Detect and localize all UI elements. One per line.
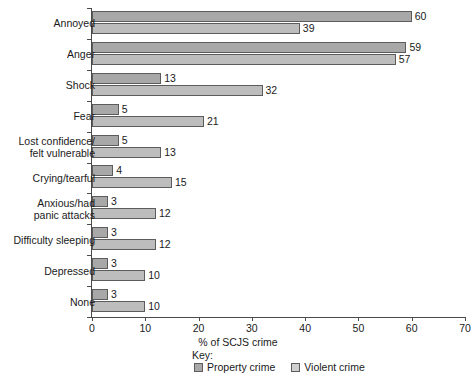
bar-value-label: 12 xyxy=(159,206,171,220)
bar-violent xyxy=(92,147,161,158)
bar-value-label: 15 xyxy=(175,175,187,189)
x-tick-label: 70 xyxy=(450,322,476,334)
bar-value-label: 21 xyxy=(207,114,219,128)
bar-property xyxy=(92,42,406,53)
category-label: Fear xyxy=(0,110,95,122)
bar-violent xyxy=(92,208,156,219)
bar-value-label: 10 xyxy=(148,268,160,282)
category-label: Lost confidence/ felt vulnerable xyxy=(0,135,95,159)
category-label: Anger xyxy=(0,48,95,60)
category-label: Anxious/had panic attacks xyxy=(0,197,95,221)
x-tick-label: 40 xyxy=(290,322,320,334)
bar-value-label: 60 xyxy=(415,9,427,23)
y-tick xyxy=(87,163,92,164)
legend-item[interactable]: Property crime xyxy=(194,361,275,373)
x-tick-label: 20 xyxy=(184,322,214,334)
bar-property xyxy=(92,135,119,146)
x-tick-mark xyxy=(465,317,466,321)
legend-items: Property crimeViolent crime xyxy=(194,361,365,373)
x-tick-mark xyxy=(252,317,253,321)
bar-value-label: 5 xyxy=(122,102,128,116)
bar-violent xyxy=(92,54,396,65)
legend-label: Property crime xyxy=(207,361,275,373)
y-tick xyxy=(87,101,92,102)
x-tick-label: 60 xyxy=(397,322,427,334)
y-tick xyxy=(87,39,92,40)
x-tick-mark xyxy=(145,317,146,321)
x-tick-label: 50 xyxy=(343,322,373,334)
bar-value-label: 5 xyxy=(122,133,128,147)
bar-violent xyxy=(92,23,300,34)
bar-value-label: 12 xyxy=(159,237,171,251)
category-label: Depressed xyxy=(0,265,95,277)
bar-value-label: 4 xyxy=(116,163,122,177)
bar-value-label: 13 xyxy=(164,145,176,159)
y-tick xyxy=(87,132,92,133)
bar-value-label: 3 xyxy=(111,194,117,208)
bar-value-label: 3 xyxy=(111,225,117,239)
x-axis-title: % of SCJS crime xyxy=(0,336,476,348)
bar-violent xyxy=(92,301,145,312)
bar-property xyxy=(92,165,113,176)
category-label: Difficulty sleeping xyxy=(0,234,95,246)
category-label: Annoyed xyxy=(0,17,95,29)
legend-swatch-icon xyxy=(291,363,300,372)
x-tick-label: 30 xyxy=(237,322,267,334)
bar-value-label: 10 xyxy=(148,299,160,313)
bar-violent xyxy=(92,85,263,96)
legend-swatch-icon xyxy=(194,363,203,372)
bar-violent xyxy=(92,270,145,281)
bar-value-label: 13 xyxy=(164,71,176,85)
bar-value-label: 3 xyxy=(111,287,117,301)
x-tick-mark xyxy=(305,317,306,321)
legend-label: Violent crime xyxy=(304,361,365,373)
bar-property xyxy=(92,104,119,115)
category-label: Shock xyxy=(0,79,95,91)
category-label: Crying/tearful xyxy=(0,172,95,184)
y-tick xyxy=(87,317,92,318)
bar-value-label: 39 xyxy=(303,21,315,35)
bar-chart: 603959571332521513415312312310310 Annoye… xyxy=(0,0,476,383)
category-label: None xyxy=(0,296,95,308)
bar-violent xyxy=(92,116,204,127)
bar-property xyxy=(92,73,161,84)
x-tick-mark xyxy=(199,317,200,321)
x-tick-mark xyxy=(358,317,359,321)
x-tick-label: 10 xyxy=(130,322,160,334)
bar-property xyxy=(92,11,412,22)
x-tick-mark xyxy=(92,317,93,321)
bar-value-label: 3 xyxy=(111,256,117,270)
y-tick xyxy=(87,193,92,194)
bar-violent xyxy=(92,177,172,188)
y-tick xyxy=(87,224,92,225)
x-tick-mark xyxy=(412,317,413,321)
legend-item[interactable]: Violent crime xyxy=(291,361,365,373)
legend-title: Key: xyxy=(192,349,213,361)
bar-value-label: 32 xyxy=(266,83,278,97)
bar-value-label: 57 xyxy=(399,52,411,66)
x-axis-line xyxy=(91,317,466,318)
bar-violent xyxy=(92,239,156,250)
y-tick xyxy=(87,70,92,71)
x-tick-label: 0 xyxy=(77,322,107,334)
plot-area: 603959571332521513415312312310310 xyxy=(92,8,465,317)
y-tick xyxy=(87,286,92,287)
bar-value-label: 59 xyxy=(409,40,421,54)
y-tick xyxy=(87,255,92,256)
